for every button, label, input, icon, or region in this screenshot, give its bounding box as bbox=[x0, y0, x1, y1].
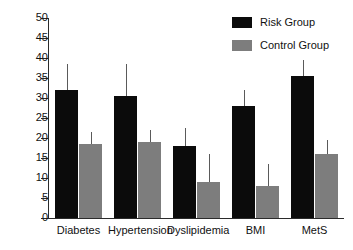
x-axis-label-hypertension: Hypertension bbox=[108, 224, 167, 236]
bar-mets-control bbox=[315, 154, 338, 218]
x-axis-label-mets: MetS bbox=[285, 224, 344, 236]
legend-item-control-group: Control Group bbox=[232, 36, 350, 54]
bar-diabetes-risk bbox=[55, 90, 78, 218]
error-bar-mets-risk bbox=[303, 60, 304, 76]
x-axis-label-diabetes: Diabetes bbox=[49, 224, 108, 236]
bar-bmi-risk bbox=[232, 106, 255, 218]
bar-dyslipidemia-risk bbox=[173, 146, 196, 218]
legend-swatch-risk-group bbox=[232, 17, 252, 28]
error-bar-dyslipidemia-risk bbox=[185, 128, 186, 146]
error-bar-diabetes-risk bbox=[67, 64, 68, 90]
legend-item-risk-group: Risk Group bbox=[232, 13, 350, 31]
error-bar-bmi-risk bbox=[244, 90, 245, 106]
error-bar-hypertension-control bbox=[150, 130, 151, 142]
error-bar-diabetes-control bbox=[91, 132, 92, 144]
error-bar-hypertension-risk bbox=[126, 64, 127, 96]
error-bar-bmi-control bbox=[268, 164, 269, 186]
bar-hypertension-control bbox=[138, 142, 161, 218]
legend: Risk Group Control Group bbox=[232, 13, 350, 59]
legend-label-risk-group: Risk Group bbox=[260, 16, 315, 28]
bar-hypertension-risk bbox=[114, 96, 137, 218]
x-axis-label-dyslipidemia: Dyslipidemia bbox=[167, 224, 226, 236]
error-bar-mets-control bbox=[327, 140, 328, 154]
bar-diabetes-control bbox=[79, 144, 102, 218]
bar-bmi-control bbox=[256, 186, 279, 218]
bar-mets-risk bbox=[291, 76, 314, 218]
bar-dyslipidemia-control bbox=[197, 182, 220, 218]
error-bar-dyslipidemia-control bbox=[209, 154, 210, 182]
x-axis-label-bmi: BMI bbox=[226, 224, 285, 236]
bar-chart: 05101520253035404550 DiabetesHypertensio… bbox=[0, 0, 353, 250]
legend-swatch-control-group bbox=[232, 40, 252, 51]
legend-label-control-group: Control Group bbox=[260, 39, 329, 51]
